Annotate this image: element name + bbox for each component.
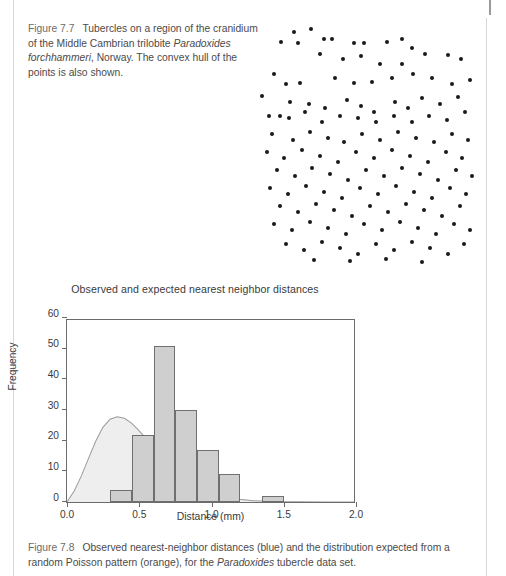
- scatter-point: [370, 80, 374, 84]
- histogram-bar: [132, 435, 154, 502]
- scatter-point: [468, 228, 472, 232]
- scatter-point: [268, 186, 272, 190]
- y-axis-tick-label: 60: [48, 307, 59, 318]
- scatter-point: [302, 248, 306, 252]
- scatter-point: [412, 190, 416, 194]
- x-axis-tick: [212, 502, 213, 507]
- scatter-point: [320, 240, 324, 244]
- scatter-point: [400, 37, 404, 41]
- book-page: Figure 7.7Tubercles on a region of the c…: [0, 0, 506, 576]
- scatter-point: [272, 72, 276, 76]
- scatter-point: [398, 220, 402, 224]
- y-axis-tick-label: 20: [48, 430, 59, 441]
- scatter-point: [392, 114, 396, 118]
- scatter-point: [360, 132, 364, 136]
- scatter-point: [322, 37, 326, 41]
- scatter-point: [288, 100, 292, 104]
- scatter-point: [428, 246, 432, 250]
- scatter-point: [322, 190, 326, 194]
- scatter-point: [462, 242, 466, 246]
- scatter-point: [354, 150, 358, 154]
- scatter-point: [374, 242, 378, 246]
- scatter-point: [298, 81, 302, 85]
- scatter-point: [284, 82, 288, 86]
- figure-7-7-caption: Figure 7.7Tubercles on a region of the c…: [28, 22, 260, 80]
- scatter-point: [444, 150, 448, 154]
- scatter-point: [303, 110, 307, 114]
- scatter-point: [430, 196, 434, 200]
- histogram-bar: [110, 490, 132, 502]
- scatter-point: [356, 252, 360, 256]
- scatter-point: [348, 259, 352, 263]
- scatter-point: [292, 30, 296, 34]
- scatter-point: [358, 186, 362, 190]
- scatter-point: [328, 172, 332, 176]
- scatter-point: [470, 174, 474, 178]
- scatter-point: [309, 27, 313, 31]
- scatter-point: [423, 52, 427, 56]
- scatter-point: [464, 192, 468, 196]
- nearest-neighbor-histogram-figure: Observed and expected nearest neighbor d…: [20, 283, 370, 538]
- y-axis-tick-label: 50: [48, 338, 59, 349]
- scatter-point: [272, 222, 276, 226]
- page-right-rule: [486, 18, 487, 576]
- scatter-point: [454, 168, 458, 172]
- scatter-point: [346, 178, 350, 182]
- scatter-point: [430, 76, 434, 80]
- scatter-point: [279, 40, 283, 44]
- scatter-point: [362, 222, 366, 226]
- scatter-point: [386, 210, 390, 214]
- figure-7-8-caption-text-2: tubercle data set.: [274, 557, 356, 568]
- scatter-point: [287, 116, 291, 120]
- scatter-point: [352, 81, 356, 85]
- scatter-point: [308, 130, 312, 134]
- scatter-point: [376, 192, 380, 196]
- page-top-right-tick: [489, 0, 491, 15]
- scatter-point: [380, 228, 384, 232]
- figure-7-7-label: Figure 7.7: [28, 23, 74, 34]
- scatter-point: [342, 140, 346, 144]
- histogram-bar: [175, 410, 197, 502]
- scatter-point: [352, 41, 356, 45]
- scatter-point: [344, 232, 348, 236]
- scatter-point: [286, 192, 290, 196]
- scatter-point: [278, 114, 282, 118]
- scatter-point: [338, 114, 342, 118]
- scatter-point: [410, 46, 414, 50]
- scatter-point: [450, 132, 454, 136]
- scatter-point: [260, 94, 264, 98]
- scatter-point: [310, 166, 314, 170]
- scatter-point: [385, 40, 389, 44]
- scatter-point: [410, 240, 414, 244]
- scatter-point: [426, 160, 430, 164]
- scatter-point: [427, 114, 431, 118]
- x-axis-label: Distance (mm): [66, 511, 355, 522]
- x-axis-tick: [67, 502, 68, 507]
- y-axis-tick: [62, 409, 67, 410]
- scatter-point: [410, 120, 414, 124]
- scatter-point: [400, 62, 404, 66]
- scatter-point: [291, 138, 295, 142]
- scatter-point: [296, 41, 300, 45]
- scatter-point: [267, 114, 271, 118]
- scatter-point: [340, 196, 344, 200]
- y-axis-tick-label: 10: [48, 460, 59, 471]
- scatter-point: [420, 260, 424, 264]
- scatter-point: [445, 118, 449, 122]
- scatter-point: [338, 246, 342, 250]
- figure-7-8-label: Figure 7.8: [28, 542, 74, 553]
- scatter-point: [350, 214, 354, 218]
- scatter-point: [396, 130, 400, 134]
- figure-7-8-caption-species: Paradoxides: [217, 557, 274, 568]
- scatter-point: [450, 82, 454, 86]
- scatter-point: [466, 138, 470, 142]
- chart-plot-area: 01020304050600.00.51.01.52.0: [66, 319, 355, 503]
- figure-7-8-caption: Figure 7.8Observed nearest-neighbor dist…: [28, 541, 480, 570]
- scatter-point: [390, 148, 394, 152]
- scatter-point: [275, 168, 279, 172]
- scatter-point: [320, 120, 324, 124]
- scatter-point: [336, 160, 340, 164]
- scatter-point: [432, 140, 436, 144]
- scatter-point: [326, 226, 330, 230]
- scatter-point: [418, 172, 422, 176]
